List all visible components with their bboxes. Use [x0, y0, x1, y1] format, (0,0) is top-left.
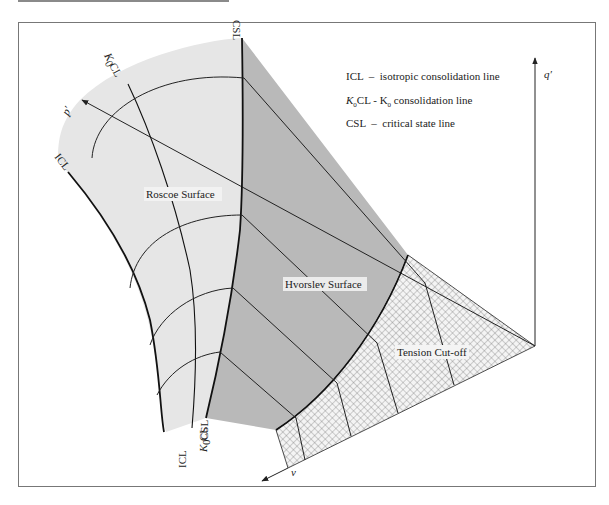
legend-k0cl: K0CL - K0 consolidation line	[345, 94, 472, 109]
hvorslev-surface-label: Hvorslev Surface	[285, 278, 362, 290]
v-axis	[262, 468, 288, 481]
tension-cutoff-label: Tension Cut-off	[397, 346, 467, 358]
csl-bottom-label: CSL	[198, 420, 210, 440]
state-boundary-diagram: Roscoe Surface Hvorslev Surface Tension …	[0, 0, 609, 505]
roscoe-surface	[58, 38, 243, 432]
csl-top-label: CSL	[231, 20, 243, 40]
legend-icl: ICL – isotropic consolidation line	[346, 70, 500, 82]
icl-bottom-label: ICL	[176, 450, 188, 468]
v-axis-label: v	[291, 466, 296, 478]
roscoe-surface-label: Roscoe Surface	[146, 188, 215, 200]
legend-csl: CSL – critical state line	[346, 117, 455, 129]
q-axis-label: q′	[544, 68, 553, 80]
legend: ICL – isotropic consolidation line K0CL …	[345, 70, 500, 129]
